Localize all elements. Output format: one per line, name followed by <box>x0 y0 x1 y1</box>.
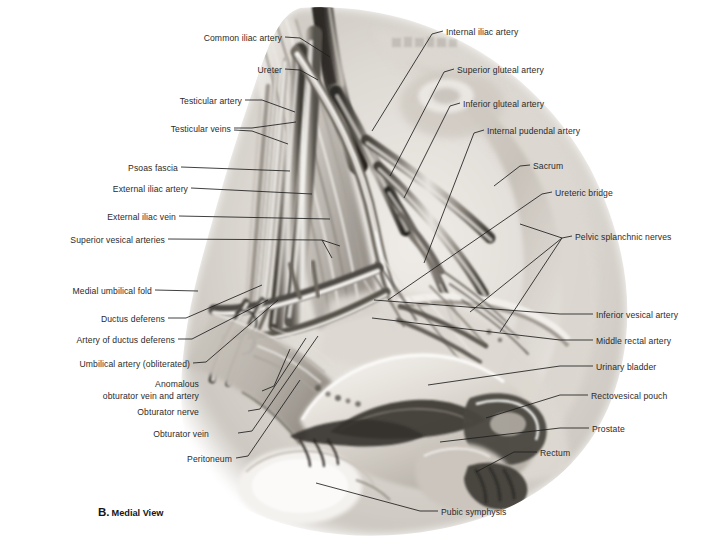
anatomical-figure <box>0 0 711 548</box>
label-medial-umbilical-fold: Medial umbilical fold <box>0 286 152 296</box>
label-ureter: Ureter <box>0 65 282 75</box>
figure-caption: B.Medial View <box>98 502 163 520</box>
label-superior-vesical-arteries: Superior vesical arteries <box>0 235 165 245</box>
label-ductus-deferens: Ductus deferens <box>0 314 165 324</box>
label-superior-gluteal-artery: Superior gluteal artery <box>457 65 544 75</box>
label-common-iliac-artery: Common iliac artery <box>0 33 282 43</box>
label-sacrum: Sacrum <box>533 161 563 171</box>
label-obturator-nerve: Obturator nerve <box>0 407 199 417</box>
label-inferior-gluteal-artery: Inferior gluteal artery <box>463 99 544 109</box>
label-prostate: Prostate <box>592 424 625 434</box>
label-ureteric-bridge: Ureteric bridge <box>555 188 613 198</box>
label-artery-of-ductus-deferens: Artery of ductus deferens <box>0 335 175 345</box>
label-rectovesical-pouch: Rectovesical pouch <box>591 391 667 401</box>
label-pubic-symphysis: Pubic symphysis <box>441 507 507 517</box>
label-rectum: Rectum <box>540 448 570 458</box>
label-external-iliac-vein: External iliac vein <box>0 212 176 222</box>
label-inferior-vesical-artery: Inferior vesical artery <box>596 310 678 320</box>
label-testicular-artery: Testicular artery <box>0 96 242 106</box>
label-testicular-veins: Testicular veins <box>0 124 231 134</box>
label-umbilical-artery-obliterated: Umbilical artery (obliterated) <box>0 359 190 369</box>
label-urinary-bladder: Urinary bladder <box>596 362 656 372</box>
leader-medial-umbilical-fold <box>155 290 198 291</box>
label-anomalous-obturator-line1: Anomalous <box>0 379 199 389</box>
label-pelvic-splanchnic-nerves: Pelvic splanchnic nerves <box>575 232 672 242</box>
label-psoas-fascia: Psoas fascia <box>0 163 178 173</box>
caption-letter: B. <box>98 506 110 518</box>
label-internal-iliac-artery: Internal iliac artery <box>446 27 518 37</box>
label-internal-pudendal-artery: Internal pudendal artery <box>487 126 580 136</box>
label-external-iliac-artery: External iliac artery <box>0 184 188 194</box>
caption-text: Medial View <box>112 508 164 518</box>
label-peritoneum: Peritoneum <box>0 454 232 464</box>
label-obturator-vein: Obturator vein <box>0 429 209 439</box>
label-anomalous-obturator-line2: obturator vein and artery <box>0 391 199 401</box>
label-middle-rectal-artery: Middle rectal artery <box>596 336 671 346</box>
